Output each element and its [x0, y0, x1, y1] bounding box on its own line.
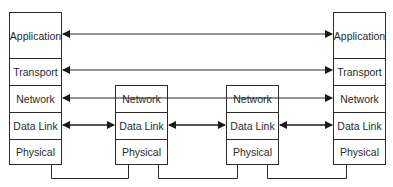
router-1-stack: Network Data Link Physical [115, 85, 168, 165]
router-2-physical-layer: Physical [227, 139, 278, 164]
left-host-transport-layer: Transport [10, 58, 61, 85]
router-2-datalink-layer: Data Link [227, 112, 278, 139]
left-host-physical-layer: Physical [10, 139, 61, 164]
physical-cable-2 [159, 165, 238, 179]
router-2-stack: Network Data Link Physical [226, 85, 279, 165]
router-1-physical-layer: Physical [116, 139, 167, 164]
left-host-stack: Application Transport Network Data Link … [9, 12, 62, 165]
physical-cable-3 [268, 165, 347, 179]
right-host-datalink-layer: Data Link [334, 112, 385, 139]
right-host-transport-layer: Transport [334, 58, 385, 85]
router-1-datalink-layer: Data Link [116, 112, 167, 139]
router-2-network-layer: Network [227, 86, 278, 112]
physical-cable-1 [52, 165, 129, 179]
left-host-application-layer: Application [10, 13, 61, 58]
right-host-application-layer: Application [334, 13, 385, 58]
left-host-datalink-layer: Data Link [10, 112, 61, 139]
left-host-network-layer: Network [10, 85, 61, 112]
right-host-physical-layer: Physical [334, 139, 385, 164]
right-host-network-layer: Network [334, 85, 385, 112]
router-1-network-layer: Network [116, 86, 167, 112]
right-host-stack: Application Transport Network Data Link … [333, 12, 386, 165]
